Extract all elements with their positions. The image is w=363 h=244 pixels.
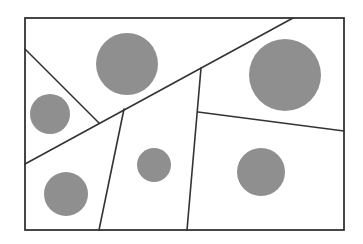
partition-diagram [0, 0, 363, 244]
circle-left [30, 94, 70, 134]
circle-bottom-right [237, 148, 285, 196]
circle-center [137, 148, 171, 182]
circle-top-right [249, 39, 321, 111]
circle-top-center [96, 33, 158, 95]
circle-bottom-left [44, 172, 88, 216]
